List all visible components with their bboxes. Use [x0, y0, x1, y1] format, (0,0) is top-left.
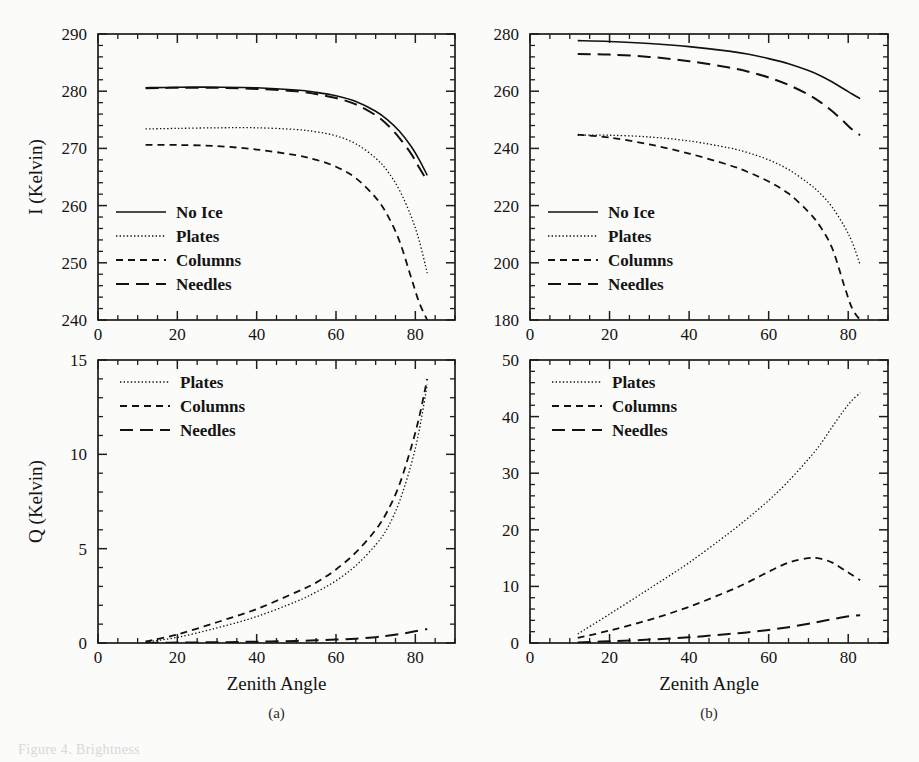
y-tick-label: 0 — [511, 634, 520, 653]
curve-columns — [578, 558, 860, 638]
y-tick-label: 250 — [62, 254, 88, 273]
y-tick-label: 280 — [494, 25, 520, 44]
panel-label-b: (b) — [700, 705, 718, 722]
x-tick-label: 80 — [840, 325, 857, 344]
plot-frame — [530, 360, 888, 643]
x-tick-label: 60 — [760, 648, 777, 667]
curve-needles — [578, 54, 860, 135]
x-tick-label: 80 — [407, 325, 424, 344]
x-axis-title: Zenith Angle — [659, 673, 759, 694]
legend-panel-a-Q: PlatesColumnsNeedles — [120, 373, 246, 440]
y-tick-label: 10 — [70, 445, 87, 464]
legend-label-plates: Plates — [176, 227, 220, 246]
x-tick-label: 20 — [169, 648, 186, 667]
legend-label-no-ice: No Ice — [176, 203, 223, 222]
y-tick-label: 50 — [502, 351, 519, 370]
y-tick-label: 260 — [62, 197, 88, 216]
legend-label-needles: Needles — [180, 421, 236, 440]
curve-needles — [578, 615, 860, 642]
x-tick-label: 60 — [328, 325, 345, 344]
y-tick-label: 10 — [502, 577, 519, 596]
x-tick-label: 20 — [601, 325, 618, 344]
legend-label-plates: Plates — [180, 373, 224, 392]
x-tick-label: 40 — [681, 648, 698, 667]
x-tick-label: 80 — [840, 648, 857, 667]
x-tick-label: 0 — [526, 648, 535, 667]
legend-label-plates: Plates — [612, 373, 656, 392]
legend-label-columns: Columns — [180, 397, 246, 416]
curve-columns — [146, 379, 428, 642]
legend-panel-b-Q: PlatesColumnsNeedles — [552, 373, 678, 440]
x-tick-label: 0 — [94, 325, 103, 344]
curves-group — [146, 379, 428, 643]
y-axis-title: Q (Kelvin) — [25, 460, 47, 543]
y-tick-label: 290 — [62, 25, 88, 44]
panel-label-a: (a) — [268, 705, 285, 722]
x-tick-label: 40 — [681, 325, 698, 344]
x-tick-label: 20 — [601, 648, 618, 667]
curve-no-ice — [146, 87, 428, 175]
plot-frame — [98, 34, 455, 320]
legend-panel-a-I: No IcePlatesColumnsNeedles — [116, 203, 242, 294]
y-tick-label: 5 — [79, 540, 88, 559]
y-tick-label: 240 — [494, 139, 520, 158]
y-tick-label: 0 — [79, 634, 88, 653]
legend-label-needles: Needles — [612, 421, 668, 440]
y-tick-label: 280 — [62, 82, 88, 101]
x-tick-label: 80 — [407, 648, 424, 667]
x-tick-label: 60 — [328, 648, 345, 667]
legend-label-no-ice: No Ice — [608, 203, 655, 222]
y-tick-label: 200 — [494, 254, 520, 273]
y-axis-title: I (Kelvin) — [25, 139, 47, 214]
plot-panel-a-Q: 020406080051015Q (Kelvin)Zenith AnglePla… — [25, 351, 455, 694]
y-tick-label: 15 — [70, 351, 87, 370]
plot-frame — [530, 34, 888, 320]
plot-panel-a-I: 020406080240250260270280290I (Kelvin)No … — [25, 25, 455, 344]
four-panel-line-chart: 020406080240250260270280290I (Kelvin)No … — [0, 0, 919, 762]
x-tick-label: 40 — [248, 325, 265, 344]
caption-fragment: Figure 4. Brightness — [18, 742, 140, 758]
y-tick-label: 220 — [494, 197, 520, 216]
plot-panel-b-Q: 02040608001020304050Zenith AnglePlatesCo… — [502, 351, 888, 694]
y-tick-label: 240 — [62, 311, 88, 330]
x-axis-title: Zenith Angle — [227, 673, 327, 694]
legend-label-plates: Plates — [608, 227, 652, 246]
x-tick-label: 40 — [248, 648, 265, 667]
y-tick-label: 40 — [502, 408, 519, 427]
legend-label-needles: Needles — [176, 275, 232, 294]
x-tick-label: 0 — [526, 325, 535, 344]
x-tick-label: 60 — [760, 325, 777, 344]
figure-container: 020406080240250260270280290I (Kelvin)No … — [0, 0, 919, 762]
x-tick-label: 0 — [94, 648, 103, 667]
curve-needles — [146, 629, 428, 643]
y-tick-label: 180 — [494, 311, 520, 330]
y-tick-label: 20 — [502, 521, 519, 540]
legend-label-columns: Columns — [176, 251, 242, 270]
legend-panel-b-I: No IcePlatesColumnsNeedles — [548, 203, 674, 294]
y-tick-label: 270 — [62, 139, 88, 158]
plot-panel-b-I: 020406080180200220240260280No IcePlatesC… — [494, 25, 889, 344]
y-tick-label: 30 — [502, 464, 519, 483]
y-tick-label: 260 — [494, 82, 520, 101]
curve-needles — [146, 88, 428, 181]
legend-label-columns: Columns — [608, 251, 674, 270]
legend-label-columns: Columns — [612, 397, 678, 416]
x-tick-label: 20 — [169, 325, 186, 344]
legend-label-needles: Needles — [608, 275, 664, 294]
curve-no-ice — [578, 41, 860, 99]
